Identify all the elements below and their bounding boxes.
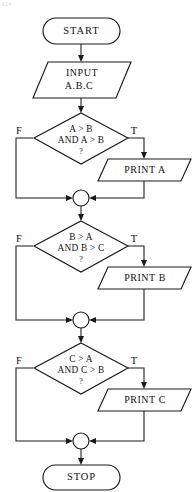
branch-label-false-2: F (16, 233, 22, 244)
node-merge-3[interactable] (73, 433, 89, 449)
node-decision-3-line3: ? (79, 377, 83, 386)
node-decision-3[interactable]: C > A AND C > B ? (34, 343, 128, 394)
branch-label-true-1: T (131, 125, 138, 136)
edge-print-c-to-merge-3 (89, 411, 144, 444)
edge-input-to-decision-1 (78, 98, 84, 113)
edge-merge-1-to-decision-2 (78, 206, 84, 221)
branch-label-false-3: F (16, 355, 22, 366)
node-decision-2-line3: ? (79, 255, 83, 264)
node-input-label-line2: A.B.C (65, 80, 93, 91)
node-print-c-label: PRINT C (124, 394, 166, 405)
node-decision-1-line2: AND A > B (58, 135, 105, 145)
node-decision-1[interactable]: A > B AND A > B ? (34, 113, 128, 164)
node-decision-3-line1: C > A (69, 354, 93, 364)
edge-merge-3-to-stop (78, 449, 84, 465)
edge-decision-1-true-to-print-a (128, 138, 147, 159)
node-print-c[interactable]: PRINT C (98, 389, 191, 411)
node-print-b-label: PRINT B (124, 272, 166, 283)
node-decision-1-line1: A > B (69, 124, 93, 134)
edge-decision-3-true-to-print-c (128, 368, 147, 389)
branch-label-false-1: F (16, 125, 22, 136)
node-input-label-line1: INPUT (66, 67, 98, 78)
edge-merge-2-to-decision-3 (78, 328, 84, 343)
edge-decision-2-true-to-print-b (128, 246, 147, 267)
node-merge-1[interactable] (73, 190, 89, 206)
node-stop-label: STOP (67, 471, 96, 482)
node-input[interactable]: INPUT A.B.C (33, 62, 131, 98)
node-merge-2[interactable] (73, 312, 89, 328)
flowchart-svg: START INPUT A.B.C A > B AND A > B ? F T … (0, 0, 196, 492)
node-start-label: START (63, 25, 99, 36)
node-stop[interactable]: STOP (43, 465, 120, 490)
node-decision-1-line3: ? (79, 147, 83, 156)
edge-print-a-to-merge-1 (89, 181, 144, 201)
node-print-b[interactable]: PRINT B (98, 267, 191, 289)
node-decision-2-line1: B > A (69, 232, 93, 242)
node-print-a[interactable]: PRINT A (98, 159, 191, 181)
branch-label-true-3: T (131, 355, 138, 366)
node-print-a-label: PRINT A (124, 164, 166, 175)
edge-print-b-to-merge-2 (89, 289, 144, 323)
node-decision-2-line2: AND B > C (57, 243, 104, 253)
node-start[interactable]: START (43, 18, 120, 44)
node-decision-2[interactable]: B > A AND B > C ? (34, 221, 128, 272)
branch-label-true-2: T (131, 233, 138, 244)
node-decision-3-line2: AND C > B (57, 365, 104, 375)
flowchart-canvas: 124 (0, 0, 196, 492)
edge-start-to-input (78, 44, 84, 62)
